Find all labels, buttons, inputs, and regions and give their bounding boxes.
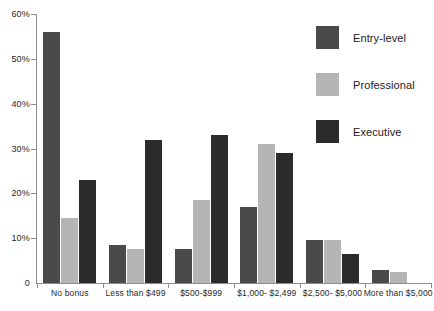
x-category-label: $1,000- $2,499 [237,288,296,298]
y-tick-mark [31,238,37,239]
bar [145,140,162,283]
bar [127,249,144,283]
legend-item: Professional [316,73,415,96]
y-tick-label: 0 [25,278,30,288]
bar-group [43,14,96,283]
legend-item: Executive [316,120,415,143]
legend-label: Professional [353,79,415,91]
bar [43,32,60,283]
y-tick-label: 50% [11,54,30,64]
x-axis-line [36,283,431,284]
x-category-label: $500-$999 [180,288,222,298]
y-tick-mark [31,149,37,150]
bar [324,240,341,283]
y-tick-mark [31,104,37,105]
bar-chart: 010%20%30%40%50%60% No bonusLess than $4… [0,0,434,311]
bar [211,135,228,283]
y-tick-label: 60% [11,9,30,19]
bar [79,180,96,283]
bar [372,270,389,283]
bar [276,153,293,283]
y-axis: 010%20%30%40%50%60% [0,0,34,311]
bar [109,245,126,283]
bar [342,254,359,283]
bar [306,240,323,283]
y-tick-label: 40% [11,99,30,109]
x-axis: No bonusLess than $499$500-$999$1,000- $… [37,288,431,308]
x-category-label: Less than $499 [105,288,165,298]
legend-label: Entry-level [353,32,406,44]
x-category-label: No bonus [51,288,89,298]
x-category-label: More than $5,000 [364,288,433,298]
legend-swatch-icon [316,26,339,49]
legend-item: Entry-level [316,26,415,49]
x-category-label: $2,500- $5,000 [303,288,362,298]
legend-swatch-icon [316,73,339,96]
y-tick-mark [31,14,37,15]
y-tick-mark [31,193,37,194]
legend: Entry-levelProfessionalExecutive [316,26,415,143]
bar [258,144,275,283]
y-tick-label: 30% [11,144,30,154]
bar-group [240,14,293,283]
y-tick-label: 10% [11,233,30,243]
bar-group [175,14,228,283]
bar [175,249,192,283]
bar-group [109,14,162,283]
bar [390,272,407,283]
bar [240,207,257,283]
bar [61,218,78,283]
y-tick-label: 20% [11,188,30,198]
legend-swatch-icon [316,120,339,143]
legend-label: Executive [353,126,402,138]
bar [193,200,210,283]
y-tick-mark [31,59,37,60]
